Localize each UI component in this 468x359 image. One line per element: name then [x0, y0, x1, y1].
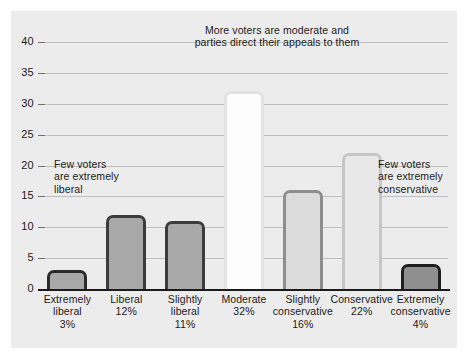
x-label-extremely-conservative-line2: conservative [385, 305, 456, 317]
annotation-extremely-liberal-line3: liberal [54, 183, 83, 195]
x-label-extremely-liberal-line3: 3% [32, 318, 103, 330]
y-tick-label-40: 40 [4, 35, 34, 47]
x-label-slightly-conservative-line3: 16% [267, 318, 338, 330]
bar-slightly-conservative [283, 190, 323, 289]
y-tick-dash-40 [38, 42, 45, 43]
x-label-slightly-liberal-line3: 11% [150, 318, 221, 330]
annotation-extremely-liberal: Few voters are extremely liberal [54, 158, 154, 195]
annotation-moderate-line2: parties direct their appeals to them [195, 36, 360, 48]
y-tick-dash-30 [38, 104, 45, 105]
annotation-extremely-conservative-line2: are extremely [378, 170, 443, 182]
annotation-extremely-conservative-line3: conservative [378, 183, 438, 195]
gridline-35 [44, 73, 448, 74]
y-tick-label-15: 15 [4, 189, 34, 201]
y-tick-label-25: 25 [4, 128, 34, 140]
bar-liberal [106, 215, 146, 289]
y-tick-dash-25 [38, 135, 45, 136]
y-tick-dash-35 [38, 73, 45, 74]
y-tick-dash-20 [38, 166, 45, 167]
y-tick-dash-15 [38, 196, 45, 197]
bar-extremely-conservative [401, 264, 441, 289]
y-tick-label-5: 5 [4, 251, 34, 263]
annotation-moderate: More voters are moderate and parties dir… [182, 24, 372, 49]
y-tick-label-20: 20 [4, 159, 34, 171]
annotation-extremely-conservative: Few voters are extremely conservative [378, 158, 468, 195]
y-tick-label-35: 35 [4, 66, 34, 78]
annotation-extremely-conservative-line1: Few voters [378, 158, 430, 170]
chart-figure: 4035302520151050 Extremelyliberal3%Liber… [0, 0, 468, 359]
bar-slightly-liberal [165, 221, 205, 289]
bar-extremely-liberal [47, 270, 87, 289]
annotation-moderate-line1: More voters are moderate and [205, 24, 349, 36]
x-label-extremely-conservative-line3: 4% [385, 318, 456, 330]
y-tick-label-10: 10 [4, 220, 34, 232]
x-axis-line [38, 289, 450, 291]
x-label-extremely-conservative: Extremelyconservative4% [385, 293, 456, 330]
annotation-extremely-liberal-line1: Few voters [54, 158, 106, 170]
annotation-extremely-liberal-line2: are extremely [54, 170, 119, 182]
x-label-extremely-conservative-line1: Extremely [385, 293, 456, 305]
y-tick-label-30: 30 [4, 97, 34, 109]
y-tick-dash-10 [38, 227, 45, 228]
bar-conservative [342, 153, 382, 289]
y-tick-label-0: 0 [4, 282, 34, 294]
y-tick-dash-5 [38, 258, 45, 259]
bar-moderate [224, 91, 264, 289]
